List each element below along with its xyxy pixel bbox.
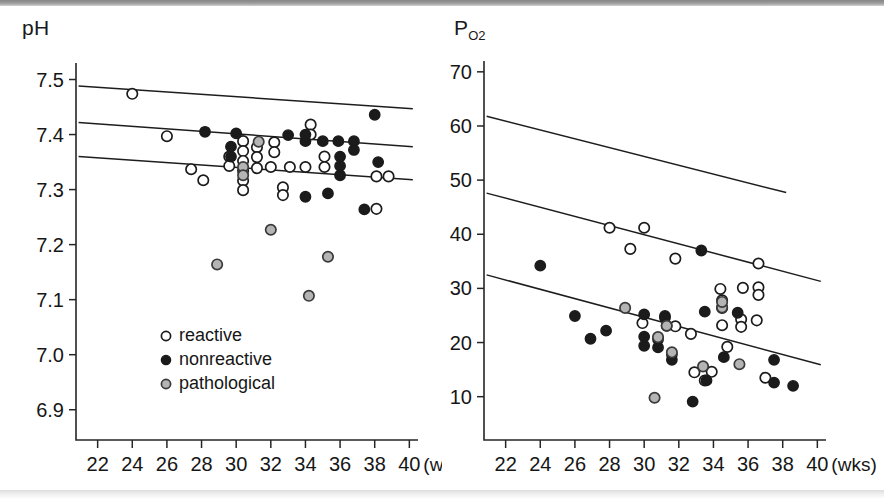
legend-marker-reactive bbox=[161, 331, 170, 340]
x-tick-label: 32 bbox=[260, 453, 282, 475]
data-point-nonreactive bbox=[700, 306, 710, 316]
data-point-nonreactive bbox=[719, 352, 729, 362]
y-tick-label: 60 bbox=[450, 115, 472, 137]
data-point-nonreactive bbox=[769, 377, 779, 387]
regression-line-upper-limit bbox=[487, 116, 787, 192]
y-tick-label: 7.1 bbox=[36, 289, 64, 311]
data-point-nonreactive bbox=[701, 375, 711, 385]
data-point-nonreactive bbox=[300, 192, 310, 202]
x-tick-label: 34 bbox=[294, 453, 316, 475]
data-point-nonreactive bbox=[373, 157, 383, 167]
legend-marker-pathological bbox=[161, 379, 170, 388]
legend-label-pathological: pathological bbox=[179, 373, 275, 393]
x-tick-label: 34 bbox=[702, 453, 724, 475]
data-point-pathological bbox=[698, 361, 708, 371]
x-tick-label: 24 bbox=[529, 453, 551, 475]
ph-plot-canvas: 7.57.47.37.27.17.06.92224262830323436384… bbox=[0, 0, 442, 499]
po2-plot-canvas: 7060504030201022242628303234363840(wks) bbox=[442, 0, 884, 499]
data-point-reactive bbox=[305, 119, 315, 129]
data-point-reactive bbox=[715, 284, 725, 294]
data-point-nonreactive bbox=[370, 110, 380, 120]
data-point-nonreactive bbox=[732, 308, 742, 318]
data-point-reactive bbox=[371, 204, 381, 214]
data-point-nonreactive bbox=[335, 170, 345, 180]
data-point-pathological bbox=[266, 225, 276, 235]
data-point-reactive bbox=[319, 162, 329, 172]
x-tick-label: 40 bbox=[806, 453, 828, 475]
data-point-pathological bbox=[253, 137, 263, 147]
data-point-pathological bbox=[717, 297, 727, 307]
x-axis-unit-label: (wks) bbox=[423, 454, 442, 475]
data-point-nonreactive bbox=[231, 128, 241, 138]
data-point-reactive bbox=[186, 164, 196, 174]
data-point-pathological bbox=[649, 393, 659, 403]
legend-label-reactive: reactive bbox=[179, 325, 242, 345]
data-point-nonreactive bbox=[687, 396, 697, 406]
data-point-reactive bbox=[371, 171, 381, 181]
y-tick-label: 7.2 bbox=[36, 234, 64, 256]
x-tick-label: 28 bbox=[190, 453, 212, 475]
data-point-nonreactive bbox=[788, 381, 798, 391]
y-tick-label: 6.9 bbox=[36, 399, 64, 421]
data-point-reactive bbox=[639, 223, 649, 233]
data-point-reactive bbox=[738, 283, 748, 293]
data-point-pathological bbox=[620, 303, 630, 313]
y-tick-label: 20 bbox=[450, 332, 472, 354]
x-tick-label: 36 bbox=[737, 453, 759, 475]
x-tick-label: 28 bbox=[598, 453, 620, 475]
data-point-pathological bbox=[667, 347, 677, 357]
y-tick-label: 40 bbox=[450, 223, 472, 245]
data-point-nonreactive bbox=[653, 342, 663, 352]
data-point-nonreactive bbox=[200, 127, 210, 137]
y-tick-label: 70 bbox=[450, 61, 472, 83]
x-tick-label: 38 bbox=[772, 453, 794, 475]
data-point-nonreactive bbox=[570, 311, 580, 321]
data-point-nonreactive bbox=[769, 355, 779, 365]
data-point-nonreactive bbox=[323, 188, 333, 198]
data-point-pathological bbox=[323, 252, 333, 262]
x-tick-label: 22 bbox=[87, 453, 109, 475]
data-point-nonreactive bbox=[300, 129, 310, 139]
data-point-reactive bbox=[252, 163, 262, 173]
x-tick-label: 36 bbox=[329, 453, 351, 475]
data-point-reactive bbox=[300, 162, 310, 172]
data-point-pathological bbox=[304, 291, 314, 301]
data-point-reactive bbox=[717, 320, 727, 330]
data-point-reactive bbox=[753, 258, 763, 268]
x-tick-label: 30 bbox=[633, 453, 655, 475]
data-point-reactive bbox=[162, 131, 172, 141]
x-tick-label: 22 bbox=[495, 453, 517, 475]
x-tick-label: 24 bbox=[121, 453, 143, 475]
data-point-reactive bbox=[238, 185, 248, 195]
y-tick-label: 7.0 bbox=[36, 344, 64, 366]
data-point-reactive bbox=[753, 290, 763, 300]
data-point-pathological bbox=[734, 359, 744, 369]
data-point-reactive bbox=[736, 322, 746, 332]
x-tick-label: 40 bbox=[398, 453, 420, 475]
data-point-reactive bbox=[285, 162, 295, 172]
y-tick-label: 7.5 bbox=[36, 69, 64, 91]
data-point-pathological bbox=[661, 321, 671, 331]
data-point-nonreactive bbox=[226, 141, 236, 151]
y-tick-label: 30 bbox=[450, 277, 472, 299]
data-point-nonreactive bbox=[601, 325, 611, 335]
x-tick-label: 32 bbox=[668, 453, 690, 475]
x-tick-label: 30 bbox=[225, 453, 247, 475]
data-point-reactive bbox=[604, 223, 614, 233]
data-point-pathological bbox=[212, 259, 222, 269]
data-point-nonreactive bbox=[333, 136, 343, 146]
x-tick-label: 26 bbox=[156, 453, 178, 475]
data-point-reactive bbox=[722, 342, 732, 352]
data-point-pathological bbox=[238, 170, 248, 180]
y-tick-label: 10 bbox=[450, 386, 472, 408]
data-point-nonreactive bbox=[585, 334, 595, 344]
data-point-reactive bbox=[686, 329, 696, 339]
data-point-nonreactive bbox=[226, 151, 236, 161]
data-point-reactive bbox=[752, 315, 762, 325]
data-point-nonreactive bbox=[359, 204, 369, 214]
data-point-reactive bbox=[266, 162, 276, 172]
data-point-nonreactive bbox=[318, 136, 328, 146]
ph-scatter-panel: pH 7.57.47.37.27.17.06.92224262830323436… bbox=[0, 0, 442, 499]
data-point-reactive bbox=[625, 244, 635, 254]
data-point-nonreactive bbox=[283, 130, 293, 140]
